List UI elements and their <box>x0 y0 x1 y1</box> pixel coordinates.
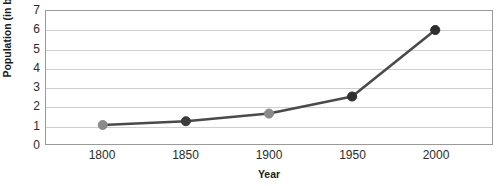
plot-area <box>45 10 493 145</box>
y-axis-tick-label: 6 <box>20 23 40 35</box>
data-point-marker <box>431 25 440 34</box>
x-axis-tick-label: 1850 <box>156 148 216 162</box>
y-axis-tick-label: 7 <box>20 4 40 16</box>
data-point-marker <box>264 109 273 118</box>
population-line-chart: World Population Population (in billions… <box>0 0 500 186</box>
y-axis-tick-label: 1 <box>20 120 40 132</box>
x-axis-tick-label: 1950 <box>323 148 383 162</box>
x-axis-tick-label: 1800 <box>72 148 132 162</box>
x-axis-tick-labels: 18001850190019502000 <box>45 148 493 164</box>
data-point-marker <box>181 117 190 126</box>
x-axis-title: Year <box>45 168 493 180</box>
y-axis-tick-label: 4 <box>20 62 40 74</box>
data-point-marker <box>348 92 357 101</box>
data-point-marker <box>98 120 107 129</box>
series-line <box>46 11 492 144</box>
x-axis-tick-label: 1900 <box>239 148 299 162</box>
y-axis-title: Population (in billions) <box>1 0 13 86</box>
y-axis-tick-label: 2 <box>20 100 40 112</box>
y-axis-tick-label: 0 <box>20 139 40 151</box>
y-axis-tick-label: 5 <box>20 43 40 55</box>
x-axis-tick-label: 2000 <box>406 148 466 162</box>
y-axis-tick-label: 3 <box>20 81 40 93</box>
y-axis-tick-labels: 01234567 <box>20 10 40 145</box>
